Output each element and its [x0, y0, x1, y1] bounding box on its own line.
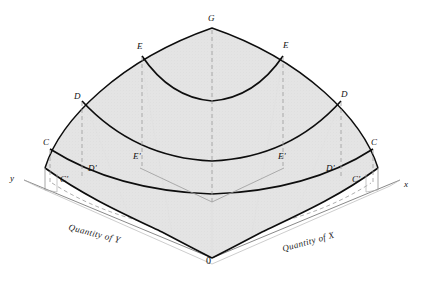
label-c-prime-right: C' — [352, 175, 360, 184]
label-origin: 0 — [206, 256, 211, 266]
base-cap-left — [24, 180, 36, 186]
label-contour-d-left: D — [74, 92, 81, 101]
label-y-axis: y — [10, 174, 14, 183]
label-x-axis: x — [404, 180, 408, 189]
surface-fill — [45, 28, 378, 258]
label-contour-e-right: E — [283, 41, 289, 50]
utility-surface-drawing — [0, 0, 422, 282]
label-contour-e-left: E — [137, 42, 143, 51]
label-e-prime-right: E' — [278, 152, 286, 161]
utility-hill-surface — [45, 28, 378, 258]
label-d-prime-left: D' — [88, 164, 97, 173]
label-contour-d-right: D — [341, 90, 348, 99]
label-contour-c-right: C — [371, 138, 377, 147]
label-apex-g: G — [208, 14, 215, 23]
label-c-prime-left: C' — [60, 175, 68, 184]
base-cap-right — [390, 180, 400, 186]
label-d-prime-right: D' — [326, 164, 335, 173]
label-contour-c-left: C — [43, 138, 49, 147]
utility-surface-figure: G E E D D C C E' E' D' D' C' C' y x 0 Qu… — [0, 0, 422, 282]
label-e-prime-left: E' — [133, 152, 141, 161]
